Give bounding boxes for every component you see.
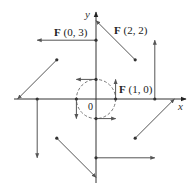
base-point-dot	[94, 78, 97, 81]
label-args: (2, 2)	[123, 24, 147, 36]
base-point-dot	[134, 58, 137, 61]
base-point-dot	[55, 58, 58, 61]
base-point-dot	[134, 137, 137, 140]
base-point-dot	[94, 117, 97, 120]
base-point-dot	[153, 97, 156, 100]
y-axis-label: y	[85, 9, 90, 20]
base-point-dot	[55, 137, 58, 140]
origin-label: 0	[88, 102, 93, 112]
x-axis-label: x	[178, 101, 183, 112]
label-args: (0, 3)	[63, 26, 87, 38]
label-args: (1, 0)	[128, 83, 152, 95]
label-F-1-0: F (1, 0)	[119, 84, 152, 95]
label-F-2-2: F (2, 2)	[114, 25, 147, 36]
F-symbol: F	[114, 24, 121, 36]
F-symbol: F	[54, 26, 61, 38]
base-point-dot	[36, 97, 39, 100]
base-point-dot	[94, 156, 97, 159]
vector-arrow	[135, 99, 174, 138]
vector-field-diagram	[0, 0, 194, 192]
base-point-dot	[75, 97, 78, 100]
vector-arrow	[57, 138, 96, 177]
base-point-dot	[94, 39, 97, 42]
vector-arrow	[18, 60, 57, 99]
F-symbol: F	[119, 83, 126, 95]
label-F-0-3: F (0, 3)	[54, 27, 87, 38]
base-point-dot	[114, 97, 117, 100]
